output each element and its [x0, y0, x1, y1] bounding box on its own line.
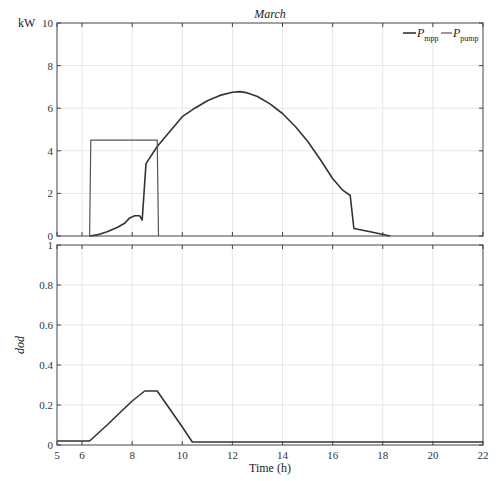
x-tick-label: 16	[327, 449, 339, 461]
y-tick-label: 4	[48, 145, 54, 157]
x-tick-label: 8	[129, 449, 135, 461]
y-tick-label: 0.4	[39, 359, 53, 371]
top-grid	[57, 23, 483, 236]
top-plot-frame	[57, 23, 483, 236]
chart-title: March	[253, 7, 286, 21]
y-axis-label-kw: kW	[18, 16, 36, 30]
y-tick-label: 8	[48, 60, 54, 72]
x-tick-label: 12	[227, 449, 238, 461]
bottom-series	[57, 391, 483, 442]
y-tick-label: 0.6	[39, 319, 53, 331]
bottom-plot-frame	[57, 245, 483, 445]
legend-label-ppump: Ppump	[452, 26, 479, 43]
y-tick-label: 6	[48, 102, 54, 114]
legend: Pmpp Ppump	[403, 26, 479, 43]
bottom-ticks	[57, 245, 483, 445]
legend-pmpp-sub: mpp	[424, 34, 438, 43]
x-tick-labels: 56810121416182022	[54, 449, 488, 461]
series-line-p-pump	[90, 140, 159, 236]
figure: 0246810 March kW Pmpp Ppump 00.20.40.60.…	[0, 0, 499, 481]
bottom-panel-dod: 00.20.40.60.81 56810121416182022 dod Tim…	[13, 239, 489, 475]
x-tick-label: 5	[54, 449, 60, 461]
y-tick-label: 0	[48, 439, 54, 451]
y-tick-label: 0.8	[39, 279, 53, 291]
top-ticks	[57, 23, 483, 236]
legend-ppump-sub: pump	[460, 34, 478, 43]
series-line-dod	[57, 391, 483, 442]
legend-label-pmpp: Pmpp	[416, 26, 439, 43]
y-tick-label: 1	[48, 239, 54, 251]
x-tick-label: 20	[427, 449, 439, 461]
y-axis-label-dod: dod	[13, 335, 27, 354]
y-tick-label: 10	[42, 17, 54, 29]
x-tick-label: 6	[79, 449, 85, 461]
bottom-grid	[57, 245, 483, 445]
top-y-tick-labels: 0246810	[42, 17, 54, 242]
x-tick-label: 14	[277, 449, 289, 461]
y-tick-label: 0.2	[39, 399, 53, 411]
top-series	[90, 92, 391, 236]
x-axis-label-time: Time (h)	[249, 461, 291, 475]
top-panel-power: 0246810 March kW Pmpp Ppump	[18, 7, 483, 242]
x-tick-label: 18	[377, 449, 389, 461]
x-tick-label: 10	[177, 449, 189, 461]
x-tick-label: 22	[478, 449, 489, 461]
y-tick-label: 2	[48, 187, 54, 199]
series-line-p-mpp	[90, 92, 391, 236]
bottom-y-tick-labels: 00.20.40.60.81	[39, 239, 53, 451]
